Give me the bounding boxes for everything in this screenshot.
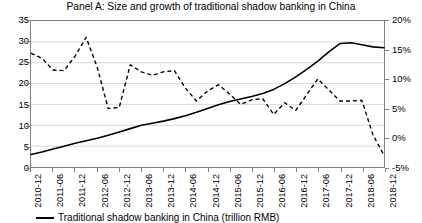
x-tick-mark bbox=[185, 168, 186, 172]
x-tick-label: 2014-06 bbox=[189, 174, 198, 208]
x-tick-label: 2018-12 bbox=[389, 174, 398, 208]
x-tick-label: 2014-12 bbox=[212, 174, 221, 208]
x-tick-label: 2015-06 bbox=[234, 174, 243, 208]
x-tick-mark bbox=[318, 168, 319, 172]
y-right-tick-mark bbox=[385, 79, 389, 80]
x-tick-mark bbox=[385, 168, 386, 172]
chart-legend: Traditional shadow banking in China (tri… bbox=[36, 210, 279, 223]
y-right-tick-mark bbox=[385, 138, 389, 139]
y-right-tick-mark bbox=[385, 50, 389, 51]
y-right-tick-mark bbox=[385, 109, 389, 110]
y-right-tick-mark bbox=[385, 20, 389, 21]
x-tick-mark bbox=[141, 168, 142, 172]
x-tick-label: 2017-06 bbox=[322, 174, 331, 208]
y-right-tick-label: 10% bbox=[392, 74, 422, 84]
x-tick-label: 2017-12 bbox=[345, 174, 354, 208]
x-tick-label: 2015-12 bbox=[256, 174, 265, 208]
series-line-traditional-shadow-banking bbox=[31, 43, 384, 155]
y-right-tick-label: 20% bbox=[392, 15, 422, 25]
legend-swatch-solid bbox=[36, 217, 54, 219]
series-canvas bbox=[31, 21, 384, 167]
y-left-tick-mark bbox=[26, 41, 30, 42]
x-tick-mark bbox=[119, 168, 120, 172]
x-tick-label: 2011-06 bbox=[56, 174, 65, 207]
series-line-growth-rate bbox=[31, 37, 384, 155]
x-tick-mark bbox=[208, 168, 209, 172]
chart-title: Panel A: Size and growth of traditional … bbox=[0, 0, 422, 13]
y-left-tick-mark bbox=[26, 62, 30, 63]
chart-figure: Panel A: Size and growth of traditional … bbox=[0, 0, 422, 223]
x-tick-label: 2010-12 bbox=[34, 174, 43, 208]
x-tick-mark bbox=[230, 168, 231, 172]
gridlines bbox=[31, 42, 384, 146]
y-left-tick-mark bbox=[26, 147, 30, 148]
x-tick-label: 2013-12 bbox=[167, 174, 176, 208]
x-tick-label: 2011-12 bbox=[78, 174, 87, 207]
y-left-tick-mark bbox=[26, 105, 30, 106]
x-tick-mark bbox=[363, 168, 364, 172]
x-tick-label: 2013-06 bbox=[145, 174, 154, 208]
y-left-tick-mark bbox=[26, 126, 30, 127]
x-tick-mark bbox=[74, 168, 75, 172]
x-tick-mark bbox=[274, 168, 275, 172]
x-tick-mark bbox=[52, 168, 53, 172]
plot-area bbox=[30, 20, 385, 168]
legend-label: Traditional shadow banking in China (tri… bbox=[58, 212, 279, 223]
y-left-tick-mark bbox=[26, 83, 30, 84]
x-tick-mark bbox=[252, 168, 253, 172]
y-left-tick-mark bbox=[26, 20, 30, 21]
x-tick-label: 2016-12 bbox=[300, 174, 309, 208]
x-tick-mark bbox=[97, 168, 98, 172]
y-right-tick-label: 0% bbox=[392, 133, 422, 143]
legend-item: Traditional shadow banking in China (tri… bbox=[36, 212, 279, 223]
x-tick-label: 2016-06 bbox=[278, 174, 287, 208]
x-tick-mark bbox=[341, 168, 342, 172]
x-tick-mark bbox=[163, 168, 164, 172]
x-tick-mark bbox=[296, 168, 297, 172]
x-tick-label: 2012-12 bbox=[123, 174, 132, 208]
x-tick-label: 2012-06 bbox=[101, 174, 110, 208]
y-right-tick-label: 5% bbox=[392, 104, 422, 114]
y-right-tick-label: 15% bbox=[392, 45, 422, 55]
y-right-tick-label: -5% bbox=[392, 163, 422, 173]
x-tick-mark bbox=[30, 168, 31, 172]
x-tick-label: 2018-06 bbox=[367, 174, 376, 208]
